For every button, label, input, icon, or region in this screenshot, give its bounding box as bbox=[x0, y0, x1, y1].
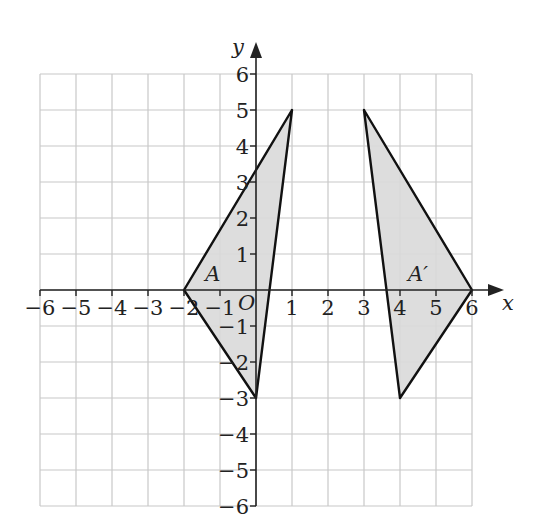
shape-label-a: A bbox=[203, 262, 220, 286]
x-tick-label: 4 bbox=[393, 296, 406, 320]
y-tick-label: 4 bbox=[236, 135, 249, 159]
shape-label-a-prime: A′ bbox=[406, 262, 428, 286]
x-tick-label: −4 bbox=[97, 296, 128, 320]
y-tick-label: −2 bbox=[218, 351, 249, 375]
y-axis-arrow-icon bbox=[250, 42, 262, 58]
coordinate-plane: −6−5−4−3−2−1123456654321−1−2−3−4−5−6xyOA… bbox=[0, 0, 537, 530]
x-axis-label: x bbox=[502, 291, 514, 315]
x-tick-label: −6 bbox=[25, 296, 56, 320]
x-tick-label: 6 bbox=[465, 296, 478, 320]
y-tick-label: −4 bbox=[218, 423, 249, 447]
x-tick-label: −2 bbox=[169, 296, 200, 320]
x-tick-label: 1 bbox=[285, 296, 298, 320]
y-tick-label: −3 bbox=[218, 387, 249, 411]
y-axis-label: y bbox=[231, 35, 245, 59]
y-tick-label: 5 bbox=[236, 99, 249, 123]
y-tick-label: 6 bbox=[236, 63, 249, 87]
y-tick-label: 2 bbox=[236, 207, 249, 231]
y-tick-label: −1 bbox=[218, 315, 249, 339]
x-tick-label: −5 bbox=[61, 296, 92, 320]
y-tick-label: 3 bbox=[236, 171, 249, 195]
x-tick-label: 5 bbox=[429, 296, 442, 320]
x-tick-label: 2 bbox=[321, 296, 334, 320]
x-tick-label: 3 bbox=[357, 296, 370, 320]
y-tick-label: −5 bbox=[218, 459, 249, 483]
y-tick-label: −6 bbox=[218, 495, 249, 519]
y-tick-label: 1 bbox=[236, 243, 249, 267]
x-tick-label: −3 bbox=[133, 296, 164, 320]
origin-label: O bbox=[238, 291, 255, 315]
